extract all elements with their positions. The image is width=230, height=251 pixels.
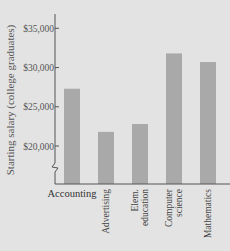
bar-computer-science bbox=[166, 53, 182, 184]
bar-chart: Starting salary (college graduates) $20,… bbox=[0, 0, 230, 251]
bar-advertising bbox=[98, 132, 114, 184]
x-category-label: Mathematics bbox=[203, 189, 213, 238]
bars bbox=[64, 53, 216, 184]
x-category-label: Advertising bbox=[101, 189, 111, 234]
y-axis-title: Starting salary (college graduates) bbox=[4, 24, 17, 175]
y-axis-ticks: $20,000$25,000$30,000$35,000 bbox=[23, 24, 59, 152]
bar-mathematics bbox=[200, 62, 216, 184]
y-tick-label: $25,000 bbox=[23, 102, 54, 112]
x-category-label: science bbox=[174, 189, 184, 217]
y-tick-label: $30,000 bbox=[23, 63, 54, 73]
bar-elem-education bbox=[132, 124, 148, 184]
x-category-label: Accounting bbox=[48, 188, 98, 199]
x-category-label: Elem. bbox=[130, 189, 140, 211]
y-axis-label: Starting salary (college graduates) bbox=[4, 24, 17, 175]
x-axis-category-labels: AccountingAdvertisingElem.educationCompu… bbox=[48, 188, 214, 238]
x-category-label: Computer bbox=[164, 188, 174, 227]
axis-break-icon bbox=[52, 163, 58, 172]
x-category-label: education bbox=[140, 189, 150, 226]
bar-accounting bbox=[64, 89, 80, 184]
y-tick-label: $20,000 bbox=[23, 142, 54, 152]
y-tick-label: $35,000 bbox=[23, 24, 54, 34]
